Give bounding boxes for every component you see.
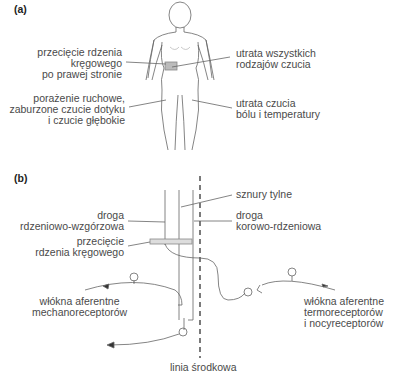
label-thermo-afferents: włókna aferentne termoreceptorów i nocyr… bbox=[304, 296, 384, 329]
label-midline: linia środkowa bbox=[170, 362, 237, 373]
label-corticospinal: droga korowo-rdzeniowa bbox=[236, 210, 321, 232]
label-cut-right: przecięcie rdzenia kręgowego po prawej s… bbox=[22, 47, 122, 80]
label-pain-temp-loss: utrata czucia bólu i temperatury bbox=[236, 98, 320, 120]
label-motor-paralysis: porażenie ruchowe, zaburzone czucie doty… bbox=[5, 93, 125, 126]
label-all-sensation-loss: utrata wszystkich rodzajów czucia bbox=[236, 48, 316, 70]
label-posterior-columns: sznury tylne bbox=[236, 189, 292, 200]
label-spinothalamic: droga rdzeniowo-wzgórzowa bbox=[20, 210, 124, 232]
label-spinal-cut: przecięcie rdzenia kręgowego bbox=[20, 236, 124, 258]
body-figure-icon bbox=[146, 2, 214, 150]
lesion-band-icon bbox=[165, 62, 177, 70]
label-mechano-afferents: włókna aferentne mechanoreceptorów bbox=[32, 296, 127, 318]
spinal-lesion-icon bbox=[150, 239, 192, 244]
